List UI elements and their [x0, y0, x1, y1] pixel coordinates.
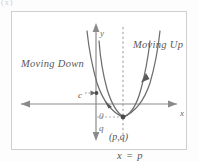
figure-canvas: Moving Down Moving Up y x c 0 q (p,q) x … [11, 11, 187, 150]
moving-down-label: Moving Down [21, 58, 84, 69]
moving-up-label: Moving Up [133, 39, 183, 50]
y-axis-bottom-arrowhead [93, 132, 100, 141]
x-axis [21, 101, 177, 108]
origin-label: 0 [99, 111, 104, 121]
moving-up-arrowhead [141, 73, 150, 83]
x-axis-left-arrowhead [21, 101, 30, 108]
y-axis-label: y [100, 28, 104, 38]
x-axis-label: x [180, 108, 184, 118]
axis-of-symmetry-label: x = p [117, 150, 143, 161]
vertex-point-marker [121, 115, 126, 120]
vertex-y-label: q [99, 123, 104, 133]
y-axis-top-arrowhead [93, 23, 100, 32]
inner-parabola-curve [99, 41, 150, 117]
top-fragment-text: (x) [1, 0, 13, 7]
figure-root: (x) [0, 0, 199, 162]
vertex-point-label: (p,q) [109, 131, 128, 142]
y-intercept-label: c [78, 90, 82, 100]
x-axis-right-arrowhead [168, 101, 177, 108]
y-intercept-marker [95, 91, 99, 95]
c-pointer-arrow [85, 91, 96, 96]
page-top-strip: (x) [0, 0, 199, 10]
